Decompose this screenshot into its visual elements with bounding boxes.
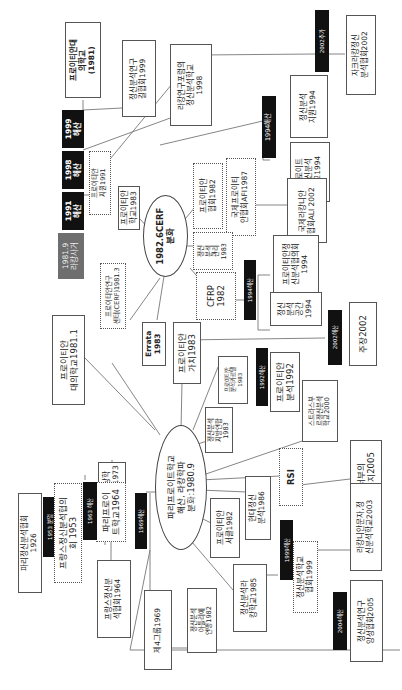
- node-french-psa-assoc-1953: 프랑스정신분석협의 회 1953: [54, 483, 82, 583]
- node-psa-research-training-2005: 정신분석연구 양성협회2005: [350, 580, 383, 662]
- marker-2002-added: 2002추가: [315, 10, 329, 72]
- marker-1998-dissolved: 1998 해산: [62, 151, 84, 189]
- oval-cerf-split-1982: 1982.6CERF 분화: [143, 195, 188, 277]
- node-freudian-school-1983: 프로이티안 학교1983: [118, 186, 140, 230]
- node-psa-management-1983: 정신 분석 관리 1983: [193, 232, 233, 270]
- node-intl-freudian-afi-1987: 국제프로이티 안협회AFI1987: [226, 158, 256, 236]
- node-freudian-value-1983: 프로이티안 가치1983: [173, 322, 201, 384]
- marker-1999-dissolved-bottom: 1999해산: [280, 520, 293, 580]
- node-freudian-univ-school-1981: 프로이티안대 의학교 (1981): [65, 22, 101, 98]
- node-errata-1983: Errata 1983: [142, 322, 166, 366]
- marker-1981-lacan-death: 1981.9 라캉사거: [58, 233, 84, 279]
- oval-paris-freudian-school-1980: 파리프로이트학교 해산, 라캉학파 분화:1980.9: [155, 425, 207, 550]
- node-lacan-forum-school-1998: 라캉연구포럼의 정신분석학교 1998: [170, 44, 212, 126]
- node-paris-psa-society-1926: 파리정신분석협회 1926: [18, 493, 42, 593]
- node-freudian-analysis-cartel-1983: 프로이티안 분석카르텔 1983: [218, 356, 248, 404]
- node-fourth-group-1969: 제4그룹1969: [144, 590, 172, 670]
- marker-2004-dissolved: 2004해산: [333, 592, 347, 650]
- node-intl-lacanian-ali-2002: 국제라캉니안 협회ALI 2002: [287, 178, 327, 243]
- marker-1999-dissolved: 1999 해산: [62, 110, 84, 148]
- node-freudian-circle-1982: 프로이티안 서클1982: [210, 498, 240, 558]
- node-psa-atelier-union-1982: 정신분석 아틀리에 연맹1982: [187, 588, 217, 653]
- node-jacques-lacan-psa-2002: 자크라캉정신 분석협회2002: [346, 15, 376, 95]
- node-freudian-assoc-1982: 프로이티안 협회1982: [193, 163, 223, 229]
- node-psa-space-1994: 정신 분석 공간 1994: [270, 292, 322, 326]
- node-freudian-research-center-1981: 프로이티안연구 센터(CERF)1981.3: [100, 263, 126, 329]
- node-freudian-psa-council-1994: 프로이티안정 신분석협의회 1994: [273, 235, 319, 293]
- marker-1994-dissolved-mid: 1994해산: [244, 260, 256, 320]
- node-psa-local-union-1983: 정신분석 지방연합 1983: [205, 407, 233, 453]
- node-freudian-analysis-1992: 프로이티안 분석1992: [270, 352, 300, 412]
- marker-1991-dissolved: 1991 해산: [62, 192, 84, 230]
- node-strasbourg-psa-school-2000: 스트라스부 르정신분석 학교2000: [302, 380, 338, 442]
- node-psa-school-assoc-1999: 정신분석학교 협회1999: [293, 541, 318, 613]
- node-modern-psa-1986: 현대정신 분석1986: [245, 476, 271, 540]
- marker-1992-dissolved: 1992해산: [256, 348, 268, 406]
- node-psa-lacan-school-1985: 정신분석라 캉학교1985: [233, 564, 267, 632]
- marker-1994-dissolved-top: 1994해산: [262, 96, 276, 158]
- node-psa-support-1994: 정신분석 지원1994: [290, 75, 328, 138]
- node-cfrp-1982: CFRP 1982: [196, 272, 236, 320]
- node-paris-freud-school-1964: 파리프로이 트학교1964: [96, 482, 126, 542]
- node-lacanian-letter-school-2003: 라캉니안문자,정 신분석학교2003: [350, 483, 382, 571]
- node-freudian-support-1991: 프로이티안 지원1991: [89, 151, 111, 215]
- node-psa-research-assoc-1999: 정신분석연구 길협회1999: [122, 40, 156, 117]
- marker-2002-dissolved: 2002해산: [328, 310, 342, 365]
- node-rsi: RSI: [279, 448, 303, 506]
- marker-1969-dissolved: 1969해산: [135, 493, 147, 549]
- node-french-psa-society-1964: 프랑스정신분 석협회1964: [97, 560, 131, 638]
- node-assertion-2002: 주장2002: [349, 302, 377, 366]
- marker-1963-dissolved: 1963 해산: [83, 482, 97, 540]
- node-freudian-univ-school-1981-1: 프로이티안 대의학교1981.1: [52, 315, 85, 405]
